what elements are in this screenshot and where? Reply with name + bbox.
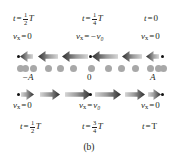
fraction-denominator: 4 xyxy=(92,20,97,27)
position-label-plus-a: A xyxy=(150,73,156,82)
top-arrow-1-left-icon xyxy=(20,51,33,62)
medium-dot-10 xyxy=(132,65,139,72)
medium-dot-8 xyxy=(105,65,112,72)
velocity-value: 0 xyxy=(27,31,32,41)
top-particle-dot-3 xyxy=(161,55,164,58)
equals-sign: = xyxy=(145,121,152,131)
bottom-arrow-4-right-icon xyxy=(95,89,121,100)
bottom-arrow-2-right-icon xyxy=(40,89,60,100)
medium-dot-3 xyxy=(30,65,37,72)
velocity-value: 0 xyxy=(27,100,32,110)
top-velocity-label-left: vx=0 xyxy=(13,32,32,42)
position-label-zero: 0 xyxy=(87,73,92,82)
bottom-time-label-T: t=T xyxy=(142,122,157,131)
equals-sign: = xyxy=(16,13,23,23)
fraction-three-quarters: 34 xyxy=(92,120,97,135)
time-value: T xyxy=(152,121,158,131)
position-value: 0 xyxy=(87,72,92,82)
bottom-particle-dot-1 xyxy=(17,93,20,96)
medium-dot-4 xyxy=(45,65,52,72)
medium-dot-13 xyxy=(160,65,167,72)
fraction-denominator: 2 xyxy=(23,20,28,27)
bottom-velocity-label-left: vx=0 xyxy=(13,101,32,111)
fraction-one-half: 12 xyxy=(23,12,28,27)
top-arrow-2-left-icon xyxy=(38,51,58,62)
equals-sign: = xyxy=(147,13,154,23)
equals-sign: = xyxy=(85,121,92,131)
fraction-denominator: 4 xyxy=(92,128,97,135)
velocity-value: 0 xyxy=(155,31,160,41)
top-arrow-4-left-icon xyxy=(92,51,118,62)
top-velocity-label-middle: vx=−v₀ xyxy=(76,32,104,42)
velocity-value: 0 xyxy=(155,100,160,110)
bottom-arrow-5-right-icon xyxy=(125,89,145,100)
period-symbol: T xyxy=(98,13,103,23)
equals-sign: = xyxy=(23,121,30,131)
equals-sign: = xyxy=(85,13,92,23)
period-symbol: T xyxy=(29,13,34,23)
period-symbol: T xyxy=(36,121,41,131)
position-label-minus-a: −A xyxy=(22,73,34,82)
bottom-time-label-half-T: t=12T xyxy=(20,120,41,135)
bottom-particle-dot-2 xyxy=(89,93,92,96)
bottom-arrow-6-right-icon xyxy=(148,89,161,100)
top-arrow-6-left-icon xyxy=(146,51,159,62)
top-arrow-3-left-icon xyxy=(62,51,88,62)
oscillator-motion-figure: t=12T t=14T t=0 vx=0 vx=−v₀ vx=0 −A 0 xyxy=(0,0,178,162)
figure-caption: (b) xyxy=(0,142,178,152)
medium-dot-5 xyxy=(57,65,64,72)
position-value: A xyxy=(150,72,156,82)
top-particle-dot-2 xyxy=(89,55,92,58)
top-particle-dot-1 xyxy=(17,55,20,58)
top-arrow-5-left-icon xyxy=(122,51,142,62)
bottom-arrow-3-right-icon xyxy=(65,89,91,100)
medium-dot-6 xyxy=(70,65,77,72)
top-time-label-quarter-T: t=14T xyxy=(82,12,103,27)
bottom-particle-dot-3 xyxy=(161,93,164,96)
top-time-label-half-T: t=12T xyxy=(13,12,34,27)
medium-dot-2 xyxy=(22,65,29,72)
velocity-value: v₀ xyxy=(93,100,100,110)
position-value: −A xyxy=(22,72,34,82)
medium-dot-9 xyxy=(118,65,125,72)
fraction-denominator: 2 xyxy=(30,128,35,135)
fraction-one-half: 12 xyxy=(30,120,35,135)
time-value: 0 xyxy=(154,13,159,23)
bottom-time-label-three-quarter-T: t=34T xyxy=(82,120,103,135)
top-time-label-zero: t=0 xyxy=(144,14,158,23)
medium-dot-7 xyxy=(88,65,95,72)
bottom-velocity-label-right: vx=0 xyxy=(141,101,160,111)
bottom-arrow-1-right-icon xyxy=(21,89,34,100)
fraction-one-quarter: 14 xyxy=(92,12,97,27)
medium-dot-11 xyxy=(147,65,154,72)
top-velocity-label-right: vx=0 xyxy=(141,32,160,42)
velocity-value: −v₀ xyxy=(90,31,103,41)
period-symbol: T xyxy=(98,121,103,131)
bottom-velocity-label-middle: vx=v₀ xyxy=(79,101,100,111)
